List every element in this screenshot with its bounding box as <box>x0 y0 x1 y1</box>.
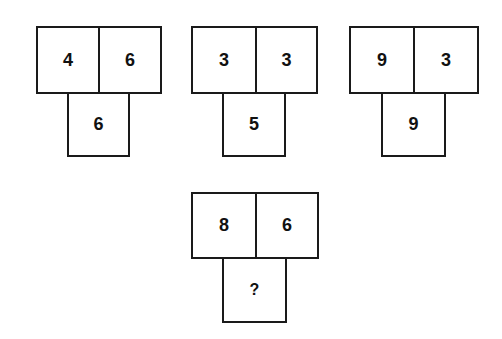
cell-value: 3 <box>441 50 451 71</box>
unknown-value: ? <box>250 281 260 299</box>
figure-2-bottom-cell: 5 <box>222 92 286 157</box>
figure-4-left-cell: 8 <box>191 192 257 259</box>
figure-1-left-cell: 4 <box>36 26 100 94</box>
figure-1-bottom-cell: 6 <box>67 92 130 157</box>
figure-3-right-cell: 3 <box>413 26 479 94</box>
cell-value: 9 <box>408 114 418 135</box>
figure-3-left-cell: 9 <box>349 26 415 94</box>
figure-2-right-cell: 3 <box>255 26 318 94</box>
cell-value: 9 <box>377 50 387 71</box>
cell-value: 3 <box>219 50 229 71</box>
cell-value: 6 <box>282 215 292 236</box>
figure-4-bottom-cell: ? <box>222 257 287 323</box>
cell-value: 4 <box>63 50 73 71</box>
figure-1-right-cell: 6 <box>98 26 162 94</box>
cell-value: 8 <box>219 215 229 236</box>
figure-2-left-cell: 3 <box>191 26 257 94</box>
cell-value: 6 <box>93 114 103 135</box>
cell-value: 6 <box>125 50 135 71</box>
figure-4-right-cell: 6 <box>255 192 319 259</box>
figure-3-bottom-cell: 9 <box>381 92 446 157</box>
cell-value: 3 <box>281 50 291 71</box>
cell-value: 5 <box>249 114 259 135</box>
